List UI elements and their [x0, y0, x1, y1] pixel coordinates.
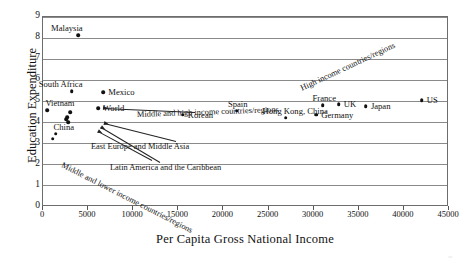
annotation-arrowhead: [104, 121, 110, 126]
gridline: [43, 38, 447, 39]
x-tick-label: 5000: [79, 210, 96, 219]
y-tick-label: 9: [6, 11, 40, 21]
data-point: [51, 137, 55, 141]
y-tick-label: 6: [6, 74, 40, 84]
data-point: [364, 105, 368, 109]
y-tick-label: 8: [6, 32, 40, 42]
y-tick-label: 5: [6, 95, 40, 105]
data-point: [337, 102, 341, 106]
data-point: [46, 108, 50, 112]
annotation-arrowhead: [103, 106, 108, 110]
gridline: [43, 59, 447, 60]
x-tick-label: 0: [40, 210, 44, 219]
gridline: [43, 80, 447, 81]
y-tick-label: 3: [6, 138, 40, 148]
x-axis-title: Per Capita Gross National Income: [42, 232, 448, 247]
group-annotation-label: Latin America and the Caribbean: [110, 163, 221, 172]
gridline: [43, 164, 447, 165]
data-point: [284, 116, 288, 120]
data-point: [70, 89, 74, 93]
data-point-label: US: [427, 96, 438, 105]
data-point-label: China: [54, 123, 75, 132]
x-tick-label: 25000: [257, 210, 278, 219]
data-point: [96, 107, 100, 111]
corner-artifact: ~: [448, 253, 452, 261]
data-point: [66, 120, 70, 124]
data-point: [76, 33, 80, 37]
data-point: [68, 110, 72, 114]
x-tick-label: 30000: [302, 210, 323, 219]
x-tick-label: 10000: [122, 210, 143, 219]
gridline: [43, 17, 447, 18]
x-tick-label: 45000: [437, 210, 458, 219]
data-point-label: France: [313, 94, 336, 103]
y-tick-label: 4: [6, 117, 40, 127]
data-point-label: Japan: [371, 102, 391, 111]
data-point-label: Germany: [321, 111, 353, 120]
y-tick-label: 7: [6, 53, 40, 63]
y-tick-label: 1: [6, 180, 40, 190]
y-tick-label: 2: [6, 159, 40, 169]
x-tick-label: 20000: [212, 210, 233, 219]
data-point: [102, 91, 106, 95]
data-point: [65, 115, 69, 119]
data-point-label: Mexico: [108, 88, 134, 97]
x-tick-label: 40000: [392, 210, 413, 219]
data-point: [314, 113, 318, 117]
x-tick-label: 35000: [347, 210, 368, 219]
data-point: [420, 99, 424, 103]
data-point-label: Vietnam: [45, 99, 74, 108]
data-point-label: South Africa: [39, 80, 83, 89]
data-point-label: Malaysia: [51, 24, 83, 33]
data-point: [54, 132, 58, 136]
data-point: [321, 103, 325, 107]
y-axis-ticks: 0123456789: [0, 0, 40, 265]
y-tick-label: 0: [6, 201, 40, 211]
data-point-label: UK: [344, 100, 356, 109]
